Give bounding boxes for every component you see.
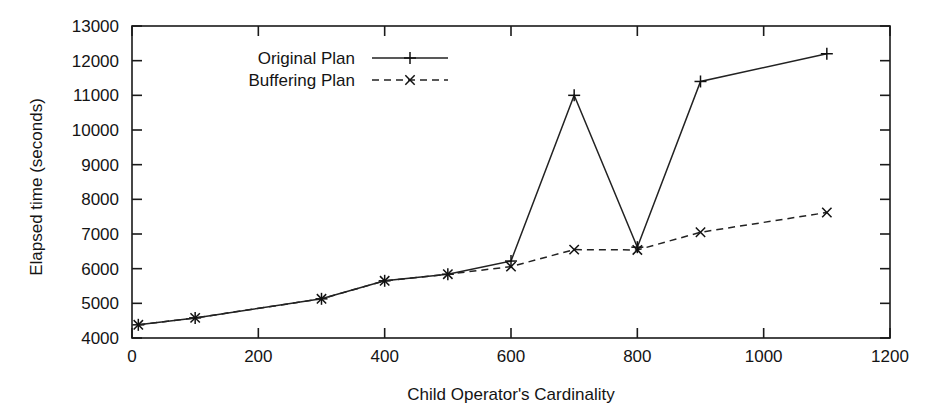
y-tick-label: 12000 — [72, 52, 119, 71]
legend-label-1: Original Plan — [258, 49, 355, 68]
series-markers-1 — [132, 48, 833, 331]
y-tick-label: 13000 — [72, 17, 119, 36]
y-tick-label: 9000 — [81, 156, 119, 175]
x-axis-tick-labels: 020040060080010001200 — [127, 347, 909, 366]
y-tick-label: 11000 — [73, 86, 119, 105]
y-axis-tick-labels: 4000500060007000800090001000011000120001… — [72, 17, 119, 348]
chart-figure: 4000500060007000800090001000011000120001… — [0, 0, 938, 413]
x-tick-label: 1000 — [745, 347, 783, 366]
y-tick-label: 6000 — [81, 260, 119, 279]
plot-frame — [132, 26, 890, 338]
x-tick-label: 0 — [127, 347, 136, 366]
chart-legend: Original PlanBuffering Plan — [249, 49, 448, 90]
data-series — [132, 48, 833, 331]
x-axis-title: Child Operator's Cardinality — [407, 385, 615, 404]
y-axis-ticks — [132, 26, 890, 338]
x-tick-label: 800 — [623, 347, 651, 366]
x-tick-label: 600 — [497, 347, 525, 366]
legend-label-2: Buffering Plan — [249, 71, 355, 90]
x-tick-label: 1200 — [871, 347, 909, 366]
x-axis-ticks — [132, 26, 890, 338]
x-tick-label: 400 — [370, 347, 398, 366]
legend-marker-1 — [404, 52, 416, 64]
y-tick-label: 7000 — [81, 225, 119, 244]
plot-canvas: 4000500060007000800090001000011000120001… — [0, 0, 938, 413]
y-tick-label: 10000 — [72, 121, 119, 140]
series-line-2 — [138, 213, 827, 325]
y-tick-label: 4000 — [81, 329, 119, 348]
series-line-1 — [138, 54, 827, 325]
y-tick-label: 5000 — [81, 294, 119, 313]
y-axis-title: Elapsed time (seconds) — [27, 98, 46, 276]
y-tick-label: 8000 — [81, 190, 119, 209]
x-tick-label: 200 — [244, 347, 272, 366]
